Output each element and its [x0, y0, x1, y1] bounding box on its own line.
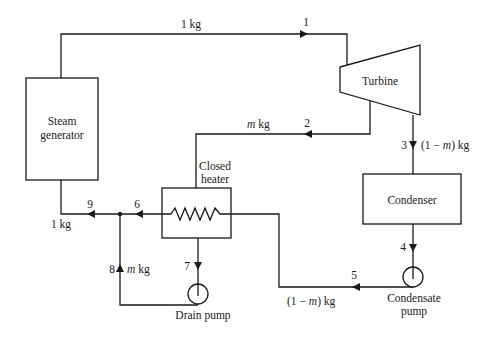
- flow-arrow-1: [300, 30, 308, 38]
- pipe-state-6-9: [61, 180, 162, 214]
- state-5-label: 5: [351, 269, 357, 281]
- cycle-diagram: Steam generator Turbine Condenser Closed…: [0, 0, 492, 340]
- state-6-label: 6: [134, 198, 140, 210]
- flow-label-state-8: m kg: [127, 263, 150, 276]
- steam-generator-label-2: generator: [40, 129, 84, 142]
- closed-heater-label-2: heater: [201, 173, 229, 185]
- state-1-label: 1: [303, 16, 309, 28]
- flow-label-state-9: 1 kg: [51, 218, 71, 231]
- flow-arrow-6: [135, 210, 143, 218]
- state-2-label: 2: [304, 117, 310, 129]
- flow-arrow-5: [352, 283, 360, 291]
- drain-pump-label: Drain pump: [175, 309, 231, 322]
- state-8-label: 8: [109, 263, 115, 275]
- condensate-pump-label-2: pump: [401, 305, 427, 318]
- pipe-state-1: [61, 34, 347, 78]
- flow-arrow-8: [116, 264, 124, 272]
- flow-arrow-3: [409, 141, 417, 149]
- state-7-label: 7: [184, 260, 190, 272]
- flow-label-bleed: m kg: [247, 118, 270, 131]
- state-9-label: 9: [87, 198, 93, 210]
- pipe-state-5: [231, 214, 413, 287]
- flow-arrow-2: [304, 130, 312, 138]
- flow-arrow-4: [409, 244, 417, 252]
- state-3-label: 3: [401, 139, 407, 151]
- turbine-label: Turbine: [362, 75, 398, 87]
- steam-generator-label-1: Steam: [48, 115, 77, 127]
- closed-heater-label-1: Closed: [199, 160, 231, 172]
- condenser-label: Condenser: [387, 194, 436, 206]
- condensate-pump-label-1: Condensate: [387, 292, 441, 304]
- state-4-label: 4: [400, 241, 406, 253]
- flow-arrow-9: [87, 210, 95, 218]
- flow-arrow-7: [194, 262, 202, 270]
- flow-label-state-5: (1 − m) kg: [287, 295, 336, 308]
- flow-label-state-3: (1 − m) kg: [421, 139, 470, 152]
- flow-label-1kg-top: 1 kg: [181, 18, 201, 31]
